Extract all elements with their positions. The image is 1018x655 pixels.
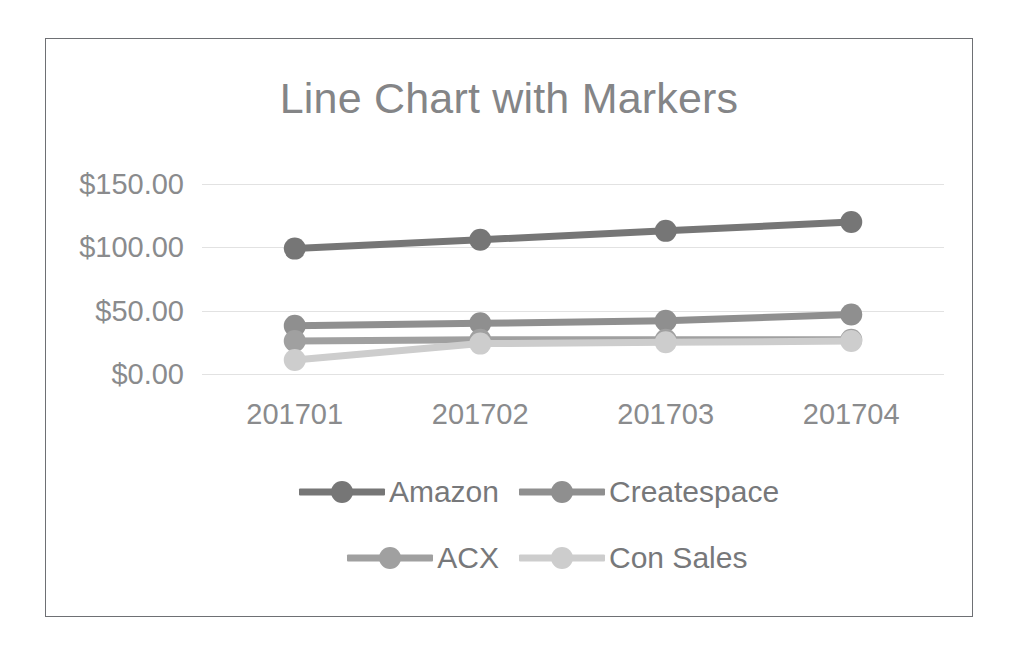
series-amazon — [284, 211, 863, 260]
chart-frame: Line Chart with Markers $150.00$100.00$5… — [45, 38, 973, 617]
series-con-sales — [284, 330, 863, 371]
data-point-marker — [840, 211, 862, 233]
legend-label: Createspace — [609, 475, 779, 509]
y-tick-label: $100.00 — [79, 231, 184, 264]
gridline — [202, 374, 944, 375]
data-point-marker — [284, 238, 306, 260]
legend-item-amazon[interactable]: Amazon — [199, 475, 499, 509]
legend-key-dot — [551, 547, 573, 569]
legend-label: ACX — [437, 541, 499, 575]
x-tick-label: 201702 — [432, 398, 529, 431]
data-point-marker — [840, 330, 862, 352]
series-createspace — [284, 303, 863, 336]
series-line — [295, 314, 852, 325]
plot-area: $150.00$100.00$50.00$0.00 20170120170220… — [202, 184, 944, 374]
data-point-marker — [469, 333, 491, 355]
data-point-marker — [655, 310, 677, 332]
series-plot — [202, 184, 944, 374]
y-tick-label: $150.00 — [79, 168, 184, 201]
y-tick-label: $0.00 — [111, 358, 184, 391]
legend-label: Amazon — [389, 475, 499, 509]
data-point-marker — [655, 331, 677, 353]
legend-key-dot — [551, 481, 573, 503]
chart-title: Line Chart with Markers — [46, 74, 972, 123]
legend-item-acx[interactable]: ACX — [199, 541, 499, 575]
legend-marker-icon — [519, 479, 605, 505]
data-point-marker — [655, 220, 677, 242]
legend-item-createspace[interactable]: Createspace — [499, 475, 819, 509]
x-tick-label: 201703 — [617, 398, 714, 431]
chart-page: Line Chart with Markers $150.00$100.00$5… — [0, 0, 1018, 655]
x-tick-label: 201704 — [803, 398, 900, 431]
series-line — [295, 222, 852, 249]
x-tick-label: 201701 — [246, 398, 343, 431]
legend-label: Con Sales — [609, 541, 747, 575]
legend-marker-icon — [347, 545, 433, 571]
data-point-marker — [284, 330, 306, 352]
y-tick-label: $50.00 — [95, 294, 184, 327]
legend-key-dot — [379, 547, 401, 569]
data-point-marker — [840, 303, 862, 325]
legend-item-con-sales[interactable]: Con Sales — [499, 541, 819, 575]
legend-row: ACXCon Sales — [46, 525, 972, 591]
data-point-marker — [469, 229, 491, 251]
legend-marker-icon — [519, 545, 605, 571]
legend-key-dot — [331, 481, 353, 503]
legend-row: AmazonCreatespace — [46, 459, 972, 525]
legend-marker-icon — [299, 479, 385, 505]
data-point-marker — [284, 349, 306, 371]
chart-legend: AmazonCreatespaceACXCon Sales — [46, 459, 972, 591]
